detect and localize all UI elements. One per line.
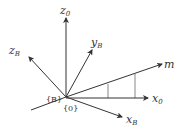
zB-label: zB <box>8 44 20 58</box>
coordinate-frame-diagram: z0 yB zB m x0 xB {B} {0} <box>0 0 186 131</box>
frame-B-label: {B} <box>46 95 62 104</box>
yB-label: yB <box>90 36 102 50</box>
yB-axis <box>66 50 92 97</box>
z0-label: z0 <box>59 4 71 18</box>
xB-label: xB <box>126 113 137 127</box>
zB-axis <box>29 57 66 97</box>
x0-label: x0 <box>152 92 163 106</box>
m-label: m <box>164 58 174 71</box>
frame-0-label: {0} <box>63 104 78 113</box>
m-vector <box>66 64 162 97</box>
